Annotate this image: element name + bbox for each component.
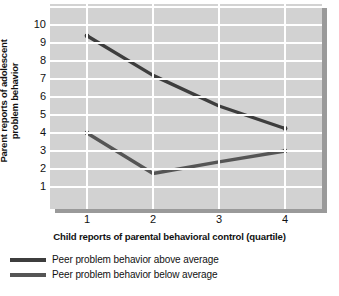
x-axis-ticks: 1234 — [0, 213, 339, 229]
gridline-vertical — [86, 4, 88, 209]
legend-label: Peer problem behavior above average — [52, 254, 219, 266]
x-tick-label: 2 — [142, 213, 164, 225]
gridline-horizontal — [50, 186, 322, 188]
gridline-horizontal — [50, 132, 322, 134]
y-tick-label: 10 — [26, 19, 46, 30]
y-tick-label: 9 — [26, 37, 46, 48]
y-tick-label: 1 — [26, 181, 46, 192]
gridline-vertical — [218, 4, 220, 209]
y-tick-label: 7 — [26, 73, 46, 84]
gridline-horizontal — [50, 42, 322, 44]
legend-item: Peer problem behavior below average — [10, 267, 339, 282]
gridline-horizontal — [50, 96, 322, 98]
gridline-horizontal — [50, 114, 322, 116]
x-tick-label: 3 — [208, 213, 230, 225]
plot-area — [50, 4, 322, 209]
gridline-horizontal — [50, 78, 322, 80]
legend-label: Peer problem behavior below average — [52, 269, 218, 281]
y-tick-label: 5 — [26, 109, 46, 120]
y-tick-label: 4 — [26, 127, 46, 138]
gridline-horizontal — [50, 168, 322, 170]
y-axis-label-line1: Parent reports of adolescent — [0, 39, 9, 162]
x-axis-label: Child reports of parental behavioral con… — [0, 231, 339, 242]
gridline-horizontal — [50, 24, 322, 26]
chart-figure: 10987654321 Parent reports of adolescent… — [0, 0, 339, 296]
y-tick-label: 8 — [26, 55, 46, 66]
chart-legend: Peer problem behavior above averagePeer … — [10, 252, 339, 282]
y-tick-label: 6 — [26, 91, 46, 102]
series-lines — [50, 4, 322, 209]
y-axis-label-line2: problem behavior — [9, 63, 20, 140]
x-tick-label: 1 — [76, 213, 98, 225]
x-tick-label: 4 — [274, 213, 296, 225]
legend-swatch — [10, 258, 46, 262]
gridline-vertical — [152, 4, 154, 209]
legend-item: Peer problem behavior above average — [10, 252, 339, 267]
legend-swatch — [10, 273, 46, 277]
gridline-horizontal — [50, 150, 322, 152]
gridline-vertical — [284, 4, 286, 209]
y-axis-label: Parent reports of adolescent problem beh… — [0, 26, 22, 186]
gridline-horizontal — [50, 6, 322, 8]
y-tick-label: 3 — [26, 145, 46, 156]
gridline-horizontal — [50, 60, 322, 62]
y-tick-label: 2 — [26, 163, 46, 174]
